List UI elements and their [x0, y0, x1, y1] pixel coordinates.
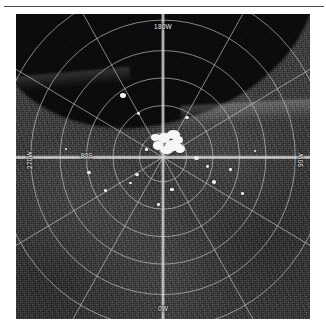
bright-spot-11 — [170, 188, 173, 191]
bright-spot-1 — [137, 112, 140, 115]
figure-top-rule — [4, 6, 324, 7]
graticule-spoke-120 — [163, 157, 310, 272]
figure-container: 180W 0W 270W 90W 80S — [0, 0, 326, 331]
longitude-label-top: 180W — [154, 23, 172, 30]
deposit-blob-6 — [175, 145, 185, 153]
latitude-label: 80S — [81, 152, 93, 159]
bright-spot-14 — [145, 148, 148, 150]
bright-spot-6 — [229, 168, 232, 171]
polar-deposit — [151, 130, 189, 159]
bright-spot-2 — [185, 116, 189, 119]
graticule-spoke-300 — [16, 42, 163, 157]
graticule-svg — [16, 14, 310, 319]
longitude-label-right: 90W — [297, 153, 304, 167]
bright-spot-5 — [212, 180, 216, 184]
radar-image-panel: 180W 0W 270W 90W 80S — [16, 14, 310, 319]
deposit-blob-5 — [160, 146, 172, 154]
graticule-spoke-240 — [16, 157, 163, 272]
graticule-spoke-210 — [52, 157, 163, 319]
polar-graticule — [16, 14, 310, 319]
graticule-spoke-330 — [52, 14, 163, 157]
deposit-blob-7 — [151, 134, 159, 141]
graticule-spoke-150 — [163, 157, 274, 319]
longitude-label-bottom: 0W — [158, 305, 168, 312]
bright-spot-13 — [157, 203, 160, 205]
bright-spot-12 — [241, 192, 244, 195]
longitude-label-left: 270W — [26, 152, 33, 170]
bright-spot-4 — [206, 165, 209, 168]
bright-spot-3 — [194, 156, 199, 160]
deposit-blob-4 — [173, 136, 183, 145]
